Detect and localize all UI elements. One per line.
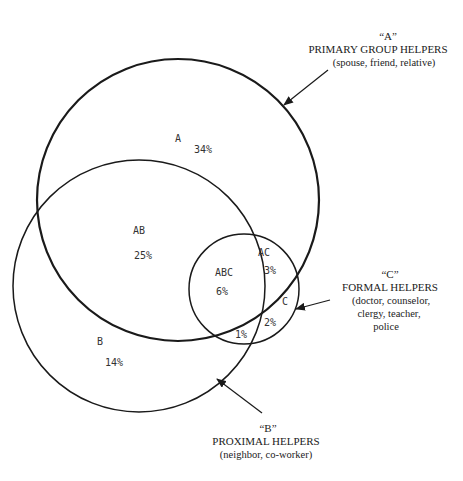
set-b-title: PROXIMAL HELPERS — [212, 435, 319, 447]
region-a-value: 34% — [194, 144, 212, 155]
set-b-examples: (neighbor, co-worker) — [220, 449, 313, 461]
region-bc-value: 1% — [235, 329, 247, 340]
set-c-examples-line-1: (doctor, counselor, — [352, 295, 430, 307]
venn-diagram: A 34% AB 25% B 14% ABC 6% AC 3% C 2% 1% … — [0, 0, 463, 481]
set-c-examples-line-3: police — [373, 321, 399, 332]
arrow-a — [284, 70, 328, 105]
arrow-c — [296, 300, 330, 309]
region-b-value: 14% — [105, 357, 123, 368]
circle-a-primary-group-helpers — [37, 59, 319, 341]
arrow-b — [217, 379, 262, 413]
region-ac-value: 3% — [264, 265, 276, 276]
region-b-label: B — [97, 336, 103, 347]
region-c-label: C — [282, 296, 288, 307]
region-c-value: 2% — [264, 317, 276, 328]
region-ab-label: AB — [133, 225, 145, 236]
circle-c-formal-helpers — [189, 234, 299, 344]
set-c-examples-line-2: clergy, teacher, — [357, 308, 420, 319]
set-a-examples: (spouse, friend, relative) — [333, 57, 436, 69]
set-c-quote-label: “C” — [381, 268, 398, 280]
set-c-title: FORMAL HELPERS — [342, 281, 438, 293]
region-ab-value: 25% — [134, 250, 152, 261]
region-abc-value: 6% — [216, 286, 228, 297]
set-a-quote-label: “A” — [379, 30, 397, 42]
set-b-quote-label: “B” — [259, 422, 276, 434]
set-a-title: PRIMARY GROUP HELPERS — [308, 43, 447, 55]
region-a-label: A — [175, 133, 181, 144]
region-ac-label: AC — [258, 247, 270, 258]
region-abc-label: ABC — [215, 267, 233, 278]
